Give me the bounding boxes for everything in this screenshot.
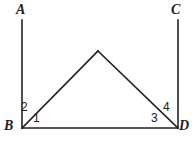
geometry-canvas xyxy=(0,0,192,143)
vertex-label-a: A xyxy=(16,3,25,17)
angle-label-2: 2 xyxy=(21,101,28,113)
angle-label-1: 1 xyxy=(33,112,40,124)
geometry-figure: A C B D 1 2 3 4 xyxy=(0,0,192,143)
vertex-label-c: C xyxy=(171,3,180,17)
vertex-label-b: B xyxy=(4,119,13,133)
angle-label-4: 4 xyxy=(163,101,170,113)
segment-apex-d xyxy=(98,51,178,128)
angle-label-3: 3 xyxy=(151,112,158,124)
vertex-label-d: D xyxy=(179,119,189,133)
